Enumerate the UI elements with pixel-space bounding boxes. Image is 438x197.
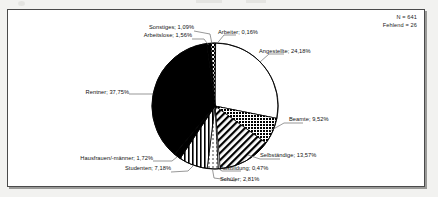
label-selbstaendige: Selbständige; 13,57% — [260, 152, 316, 159]
label-studenten: Studenten; 7,18% — [8, 165, 171, 172]
pie-slices — [152, 43, 278, 169]
label-beamte: Beamte; 9,52% — [289, 116, 329, 123]
label-schueler: Schüler; 2,81% — [220, 176, 259, 183]
label-hausfrauen: Hausfrauen/-männer; 1,72% — [8, 155, 153, 162]
leader-hausfrauen — [153, 157, 177, 161]
leader-angestellte — [260, 54, 284, 62]
screenshot-canvas: N = 641 Fehlend = 26 Sonstiges; 1,09% Ar… — [0, 0, 438, 197]
missing-label: Fehlend = 26 — [383, 21, 417, 29]
leader-arbeiter — [217, 35, 236, 44]
leader-studenten — [171, 165, 194, 172]
chart-annotations: N = 641 Fehlend = 26 — [383, 13, 417, 29]
label-arbeiter: Arbeiter; 0,16% — [218, 29, 258, 36]
page-artifact-center — [196, 0, 222, 3]
n-total-label: N = 641 — [383, 13, 417, 21]
leader-sonstiges — [194, 31, 212, 44]
label-ausbildung: Ausbildung; 0,47% — [220, 165, 268, 172]
label-arbeitslose: Arbeitslose; 1,56% — [8, 32, 192, 39]
page-artifact-left — [18, 1, 25, 6]
pie-chart-plot-area: N = 641 Fehlend = 26 Sonstiges; 1,09% Ar… — [8, 10, 424, 186]
label-rentner: Rentner; 37,75% — [8, 89, 129, 96]
label-angestellte: Angestellte; 24,18% — [259, 48, 311, 55]
label-sonstiges: Sonstiges; 1,09% — [8, 24, 194, 31]
page-artifact-right — [246, 0, 266, 3]
pie-chart-frame: N = 641 Fehlend = 26 Sonstiges; 1,09% Ar… — [7, 9, 425, 187]
